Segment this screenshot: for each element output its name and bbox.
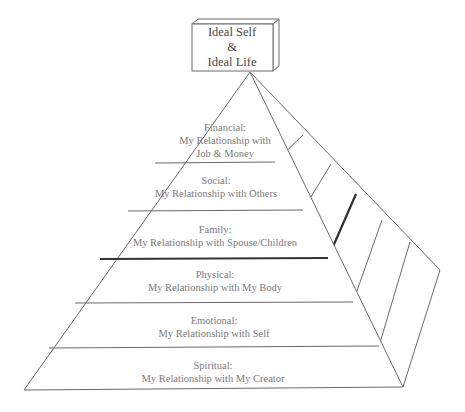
level-desc: My Relationship with My Creator: [142, 372, 285, 385]
box-side-face: [273, 19, 279, 71]
level-emotional: Emotional: My Relationship with Self: [158, 314, 269, 340]
level-desc: My Relationship with Others: [155, 187, 277, 200]
box-line-1: Ideal Self: [208, 25, 257, 40]
level-physical: Physical: My Relationship with My Body: [148, 268, 282, 294]
level-social: Social: My Relationship with Others: [155, 174, 277, 200]
level-title: Family:: [133, 223, 297, 236]
box-top-face: [192, 19, 279, 24]
level-title: Physical:: [148, 268, 282, 281]
box-line-2: &: [208, 40, 257, 55]
level-desc: Job & Money: [179, 147, 271, 160]
level-family: Family: My Relationship with Spouse/Chil…: [133, 223, 297, 249]
level-desc: My Relationship with Self: [158, 327, 269, 340]
level-desc: My Relationship with Spouse/Children: [133, 236, 297, 249]
box-line-3: Ideal Life: [208, 55, 257, 70]
level-spiritual: Spiritual: My Relationship with My Creat…: [142, 359, 285, 385]
level-desc: My Relationship with My Body: [148, 281, 282, 294]
level-financial: Financial: My Relationship with Job & Mo…: [179, 121, 271, 160]
level-desc: My Relationship with: [179, 134, 271, 147]
level-title: Social:: [155, 174, 277, 187]
side-sep-5: [379, 242, 410, 346]
level-title: Financial:: [179, 121, 271, 134]
ideal-box-label: Ideal Self & Ideal Life: [208, 25, 257, 70]
back-vertical-edge: [403, 270, 440, 387]
side-sep-4: [353, 220, 382, 302]
level-title: Spiritual:: [142, 359, 285, 372]
level-title: Emotional:: [158, 314, 269, 327]
band-line-3-emphasis: [100, 258, 328, 259]
